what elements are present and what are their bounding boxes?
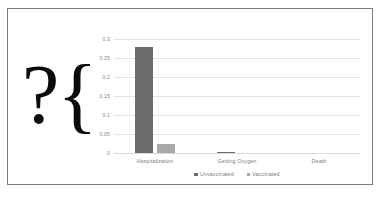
- x-axis-label: Getting Oxygen: [218, 157, 257, 166]
- gridline: [114, 153, 360, 154]
- glyph-text: ?{: [22, 47, 98, 143]
- legend-label: Unvaccinated: [200, 171, 234, 178]
- y-axis-tick-label: 0.2: [102, 74, 110, 80]
- question-brace-glyph: ?{: [22, 47, 98, 143]
- y-axis-tick-label: 0.3: [102, 36, 110, 42]
- legend-swatch-icon: [194, 173, 198, 177]
- bar-chart: 00.050.10.150.20.250.3 HospitalizationGe…: [94, 31, 370, 187]
- x-axis-labels: HospitalizationGetting OxygenDeath: [114, 157, 360, 169]
- gridline: [114, 39, 360, 40]
- y-axis-tick-label: 0.05: [100, 131, 111, 137]
- y-axis-tick-label: 0: [107, 150, 110, 156]
- y-axis-tick-label: 0.1: [102, 112, 110, 118]
- legend-swatch-icon: [247, 173, 251, 177]
- x-axis-label: Hospitalization: [137, 157, 174, 166]
- x-axis-label: Death: [312, 157, 327, 166]
- legend-item[interactable]: Unvaccinated: [194, 171, 233, 178]
- slide-frame: ?{ 00.050.10.150.20.250.3 Hospitalizatio…: [7, 8, 373, 185]
- legend-item[interactable]: Vaccinated: [247, 171, 280, 178]
- bar-unvaccinated-getting-oxygen: [217, 152, 236, 153]
- chart-legend: UnvaccinatedVaccinated: [114, 171, 360, 178]
- y-axis-tick-label: 0.15: [100, 93, 111, 99]
- legend-label: Vaccinated: [252, 171, 279, 178]
- y-axis-tick-label: 0.25: [100, 55, 111, 61]
- plot-area: 00.050.10.150.20.250.3: [114, 39, 360, 153]
- bar-unvaccinated-hospitalization: [135, 47, 154, 153]
- bar-vaccinated-hospitalization: [157, 144, 176, 154]
